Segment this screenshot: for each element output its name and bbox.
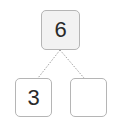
connector-left [38,50,60,78]
whole-box: 6 [41,10,80,50]
connector-right [60,50,84,78]
part-box-right[interactable] [70,78,107,117]
part-box-left: 3 [15,78,52,117]
whole-value: 6 [54,17,66,43]
part-value-left: 3 [27,85,39,111]
